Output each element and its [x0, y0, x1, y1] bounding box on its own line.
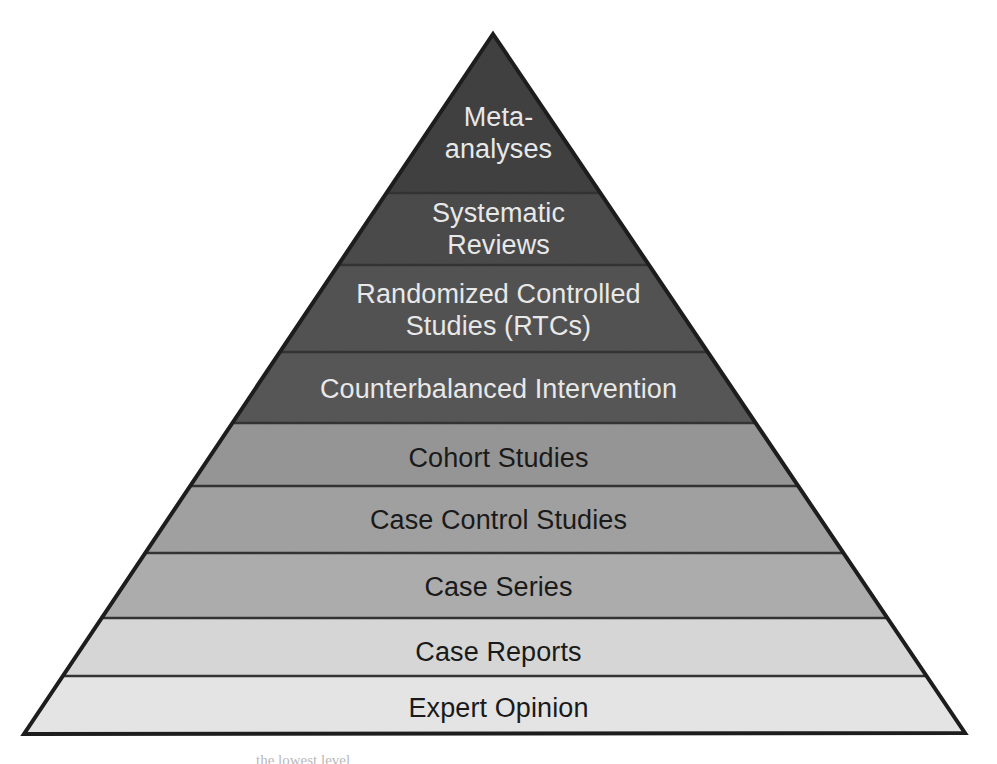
pyramid-tier-label[interactable]: Case Reports: [0, 637, 997, 669]
pyramid-tier-label[interactable]: Counterbalanced Intervention: [0, 374, 997, 406]
hierarchy-of-evidence-pyramid: Meta- analysesSystematic ReviewsRandomiz…: [0, 0, 997, 764]
pyramid-tier-labels: Meta- analysesSystematic ReviewsRandomiz…: [0, 0, 997, 764]
pyramid-tier-label[interactable]: Systematic Reviews: [0, 198, 997, 261]
pyramid-tier-label[interactable]: Expert Opinion: [0, 693, 997, 725]
pyramid-tier-label[interactable]: Case Control Studies: [0, 505, 997, 537]
pyramid-tier-label[interactable]: Meta- analyses: [0, 102, 997, 165]
cropped-caption-text: the lowest level: [256, 752, 997, 764]
pyramid-tier-label[interactable]: Cohort Studies: [0, 443, 997, 475]
pyramid-tier-label[interactable]: Case Series: [0, 572, 997, 604]
pyramid-tier-label[interactable]: Randomized Controlled Studies (RTCs): [0, 279, 997, 342]
